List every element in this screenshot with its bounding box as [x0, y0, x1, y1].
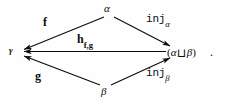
edge-label-h-fg-base: h	[77, 32, 84, 46]
node-beta: β	[101, 86, 106, 97]
edge-label-f: f	[43, 16, 47, 28]
trailing-period: .	[210, 46, 213, 58]
edge-label-inj-alpha-subscript: α	[165, 19, 169, 29]
commutative-diagram: α γ (α⊔β) β f injα hf,g g injβ .	[0, 0, 226, 102]
edge-label-h-fg: hf,g	[77, 33, 93, 48]
edge-label-inj-alpha-base: inj	[146, 13, 165, 25]
coproduct-paren-close: )	[192, 46, 196, 58]
node-alpha: α	[104, 3, 110, 14]
edge-label-g: g	[35, 70, 41, 82]
edge-label-inj-beta-subscript: β	[165, 73, 169, 83]
edge-label-inj-alpha: injα	[146, 14, 170, 27]
coproduct-symbol-icon: ⊔	[176, 47, 186, 59]
edge-label-h-fg-subscript: f,g	[84, 40, 93, 50]
node-coproduct: (α⊔β)	[167, 46, 196, 58]
node-gamma: γ	[9, 46, 13, 55]
edge-label-inj-beta: injβ	[146, 68, 169, 81]
edge-label-inj-beta-base: inj	[146, 67, 165, 79]
